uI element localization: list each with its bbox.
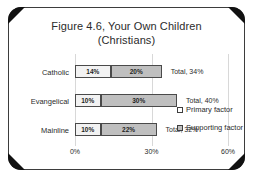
frame-corner-bottom-right-icon <box>228 153 245 170</box>
x-tick-label: 30% <box>144 148 158 155</box>
category-label-evangelical: Evangelical <box>25 97 69 106</box>
bar-total-label: Total, 34% <box>171 68 204 75</box>
bar-row: Catholic14%20%Total, 34% <box>25 61 230 87</box>
bar-segment-primary[interactable]: 10% <box>75 94 101 107</box>
x-axis: 0%30%60% <box>25 148 230 162</box>
bar-segment-supporting[interactable]: 20% <box>111 65 162 78</box>
bar-segment-primary[interactable]: 10% <box>75 123 101 136</box>
category-label-catholic: Catholic <box>25 68 69 77</box>
stacked-bar-catholic[interactable]: 14%20% <box>75 65 162 78</box>
bar-segment-supporting[interactable]: 30% <box>101 94 178 107</box>
chart-legend: Primary factorSupporting factor <box>177 105 251 141</box>
legend-swatch-supporting-icon <box>177 125 183 131</box>
x-tick-label: 0% <box>70 148 80 155</box>
chart-title-line2: (Christians) <box>9 33 244 47</box>
slide-frame: Figure 4.6, Your Own Children (Christian… <box>8 7 245 170</box>
bar-total-label: Total, 40% <box>186 97 219 104</box>
legend-label: Primary factor <box>186 105 233 114</box>
bar-segment-primary[interactable]: 14% <box>75 65 111 78</box>
legend-item-supporting[interactable]: Supporting factor <box>177 123 251 132</box>
x-tick-label: 60% <box>221 148 235 155</box>
chart-title-line1: Figure 4.6, Your Own Children <box>51 20 201 32</box>
chart-title: Figure 4.6, Your Own Children (Christian… <box>9 19 244 47</box>
category-label-mainline: Mainline <box>25 126 69 135</box>
legend-item-primary[interactable]: Primary factor <box>177 105 251 114</box>
frame-corner-bottom-left-icon <box>8 153 25 170</box>
legend-label: Supporting factor <box>186 123 243 132</box>
bar-segment-supporting[interactable]: 22% <box>101 123 157 136</box>
legend-swatch-primary-icon <box>177 107 183 113</box>
stacked-bar-evangelical[interactable]: 10%30% <box>75 94 177 107</box>
stacked-bar-mainline[interactable]: 10%22% <box>75 123 157 136</box>
